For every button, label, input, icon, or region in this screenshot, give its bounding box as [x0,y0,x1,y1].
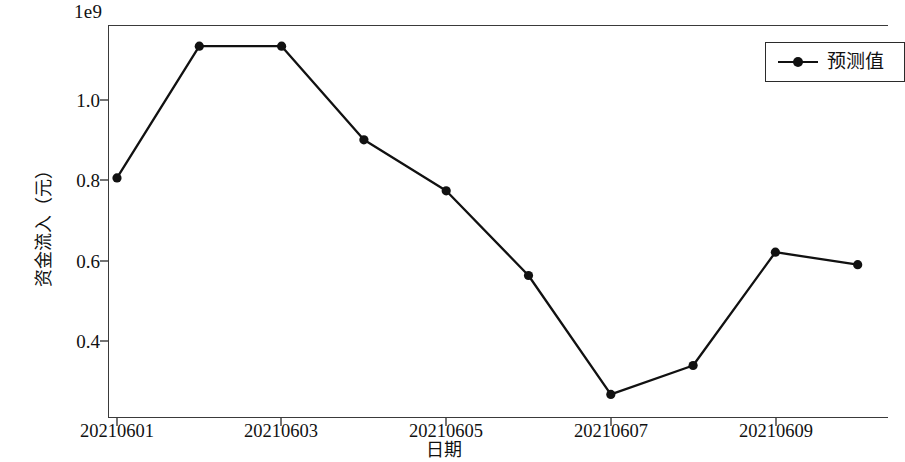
x-tick-label: 20210605 [366,421,526,441]
legend-label: 预测值 [827,52,884,72]
y-axis-title: 资金流入（元） [34,84,54,364]
legend-box: 预测值 [765,42,905,82]
x-tick-label: 20210601 [37,421,197,441]
x-tick-label: 20210603 [201,421,361,441]
x-tick-label: 20210607 [531,421,691,441]
x-tick-label: 20210609 [696,421,856,441]
legend-line-marker-icon [778,55,818,69]
x-axis-title: 日期 [0,440,888,460]
